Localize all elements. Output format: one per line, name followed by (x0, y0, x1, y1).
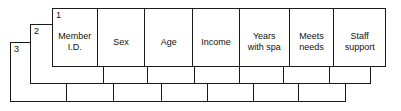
column-header-age[interactable]: Age (145, 9, 193, 66)
worksheet-stack-diagram: 3 2 (0, 0, 401, 111)
worksheet-sheet-1[interactable]: 1 Member I.D. Sex Age Income Years with … (52, 8, 386, 67)
sheet-1-column-grid: Member I.D. Sex Age Income Years with sp… (53, 9, 385, 66)
column-header-years-with-spa[interactable]: Years with spa (240, 9, 290, 66)
column-header-income[interactable]: Income (193, 9, 240, 66)
column-header-staff-support[interactable]: Staff support (334, 9, 385, 66)
column-header-sex[interactable]: Sex (98, 9, 146, 66)
column-header-meets-needs[interactable]: Meets needs (290, 9, 335, 66)
column-header-member-id[interactable]: Member I.D. (53, 9, 98, 66)
